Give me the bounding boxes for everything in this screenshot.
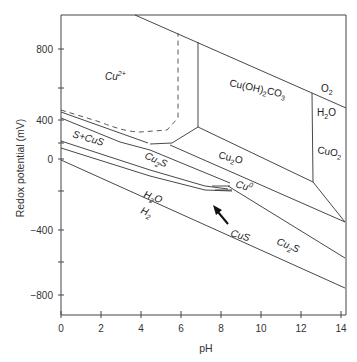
- label-cu2s-lower: Cu2S: [275, 236, 302, 257]
- x-tick-8: 8: [218, 323, 224, 334]
- label-malachite: Cu(OH)2CO3: [228, 77, 287, 102]
- label-s-cus: S+CuS: [71, 128, 105, 147]
- x-tick-12: 12: [295, 323, 307, 334]
- y-axis-labels: 800 400 0 −400 −800: [30, 44, 53, 301]
- y-tick-400: 400: [36, 115, 53, 126]
- eh-ph-diagram: 800 400 0 −400 −800 Redox potential (mV)…: [0, 0, 357, 362]
- label-cu2s-upper: Cu2S: [142, 150, 169, 172]
- label-cu0: Cu0: [234, 177, 253, 193]
- y-tick-minus800: −800: [30, 290, 53, 301]
- boundary-lines: [61, 15, 346, 288]
- y-tick-800: 800: [36, 44, 53, 55]
- y-tick-0: 0: [47, 154, 53, 165]
- label-cuo2: CuO2: [316, 144, 342, 161]
- x-tick-4: 4: [138, 323, 144, 334]
- x-tick-0: 0: [58, 323, 64, 334]
- label-h2: H2: [139, 205, 154, 221]
- x-tick-10: 10: [255, 323, 267, 334]
- x-tick-2: 2: [98, 323, 104, 334]
- label-cu2o: Cu2O: [217, 149, 244, 168]
- plot-frame: [61, 15, 346, 315]
- y-tick-minus400: −400: [30, 225, 53, 236]
- label-h2o-top: H2O: [317, 107, 336, 120]
- x-tick-6: 6: [178, 323, 184, 334]
- x-tick-14: 14: [335, 323, 347, 334]
- region-labels: Cu2+ Cu(OH)2CO3 O2 H2O CuO2 S+CuS Cu2S C…: [71, 70, 342, 257]
- cus-arrow: [213, 205, 228, 224]
- label-cu2plus: Cu2+: [105, 70, 126, 82]
- y-axis-title: Redox potential (mV): [14, 119, 26, 218]
- label-cus: CuS: [229, 227, 251, 243]
- x-axis-labels: 0 2 4 6 8 10 12 14: [58, 323, 347, 334]
- x-axis-title: pH: [199, 342, 212, 354]
- label-o2: O2: [321, 83, 333, 96]
